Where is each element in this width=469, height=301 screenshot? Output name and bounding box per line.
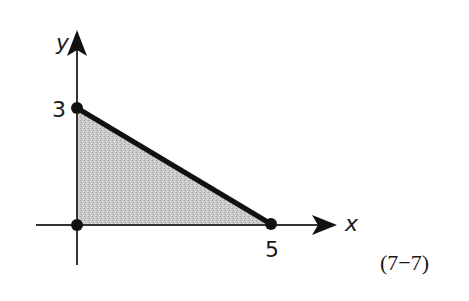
point-origin bbox=[71, 219, 83, 231]
caption: (7−7) bbox=[380, 250, 429, 275]
y-intercept-label: 3 bbox=[52, 97, 66, 122]
point-y-intercept bbox=[71, 102, 83, 114]
point-x-intercept bbox=[265, 218, 277, 230]
diagram-canvas: y x 3 5 (7−7) bbox=[0, 0, 469, 301]
x-intercept-label: 5 bbox=[265, 237, 279, 262]
x-axis-label: x bbox=[344, 211, 359, 236]
y-axis-label: y bbox=[55, 30, 70, 55]
